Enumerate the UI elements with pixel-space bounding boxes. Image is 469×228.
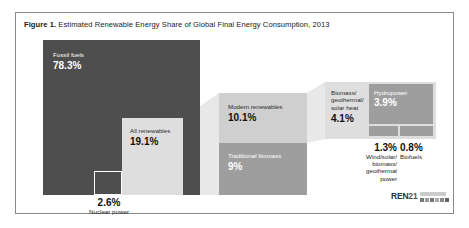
box-wind-solar-biomass-geothermal-power[interactable]	[369, 126, 398, 136]
box-biomass-geothermal-solar-heat[interactable]: Biomass/ geothermal/ solar heat 4.1%	[328, 84, 367, 137]
box-modern-renewables-value: 10.1%	[228, 113, 256, 123]
box-modern-renewables-label: Modern renewables	[228, 103, 282, 110]
ren21-wordmark: REN21	[391, 191, 417, 201]
box-biomass-geothermal-solar-heat-label: Biomass/ geothermal/ solar heat	[331, 89, 364, 111]
ren21-logo: REN21	[391, 191, 447, 208]
box-traditional-biomass-label: Traditional biomass	[228, 152, 281, 159]
box-hydropower-value: 3.9%	[374, 98, 397, 108]
ren21-wordmark-main: REN	[391, 191, 408, 201]
ren21-swatch	[440, 198, 444, 202]
box-traditional-biomass[interactable]: Traditional biomass 9%	[219, 143, 307, 195]
box-all-renewables-label: All renewables	[130, 127, 170, 134]
callout-nuclear-power: 2.6% Nuclear power	[71, 197, 147, 215]
box-biomass-geothermal-solar-heat-value: 4.1%	[331, 114, 354, 124]
box-modern-renewables[interactable]: Modern renewables 10.1%	[219, 93, 307, 143]
callout-wind-label: Wind/solar/ biomass/ geothermal power	[340, 153, 398, 182]
ren21-swatch	[425, 198, 429, 202]
callout-biofuels: 0.8% Biofuels	[400, 142, 440, 160]
box-all-renewables-value: 19.1%	[130, 137, 158, 147]
box-biofuels[interactable]	[400, 126, 433, 136]
box-fossil-fuels-label: Fossil fuels	[53, 51, 84, 58]
ren21-wordmark-accent: 21	[408, 191, 417, 201]
box-hydropower[interactable]: Hydropower 3.9%	[369, 84, 433, 124]
callout-wind-solar-biomass-geothermal-power: 1.3% Wind/solar/ biomass/ geothermal pow…	[340, 142, 398, 182]
ren21-swatch	[430, 198, 434, 202]
ren21-swatch	[435, 198, 439, 202]
callout-biofuels-value: 0.8%	[400, 142, 440, 153]
ren21-logo-bar	[420, 192, 446, 196]
box-fossil-fuels-value: 78.3%	[53, 61, 81, 71]
ren21-logo-swatches	[420, 198, 449, 202]
ren21-swatch	[420, 198, 424, 202]
callout-biofuels-label: Biofuels	[400, 153, 440, 160]
box-nuclear-power[interactable]	[94, 171, 122, 195]
box-traditional-biomass-value: 9%	[228, 162, 242, 172]
box-all-renewables[interactable]: All renewables 19.1%	[122, 118, 183, 195]
callout-wind-value: 1.3%	[340, 142, 398, 153]
figure-panel: Figure 1. Estimated Renewable Energy Sha…	[15, 12, 454, 214]
callout-nuclear-power-label: Nuclear power	[71, 208, 147, 215]
ren21-swatch	[445, 198, 449, 202]
treemap-chart: Fossil fuels 78.3% All renewables 19.1% …	[16, 13, 455, 215]
box-hydropower-label: Hydropower	[374, 89, 407, 96]
callout-nuclear-power-value: 2.6%	[71, 197, 147, 208]
